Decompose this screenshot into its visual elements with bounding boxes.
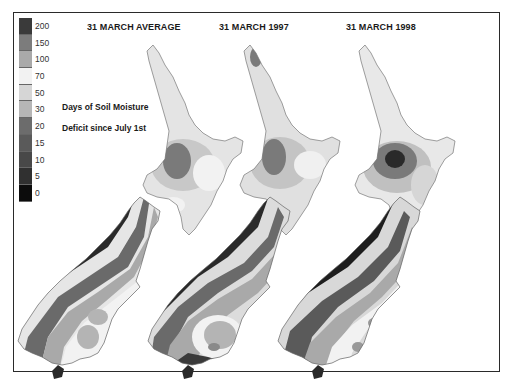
- south-island-average: [0, 187, 168, 379]
- north-island-average: [143, 45, 243, 235]
- maps-canvas: [0, 0, 509, 389]
- north-island-1997: [240, 45, 340, 235]
